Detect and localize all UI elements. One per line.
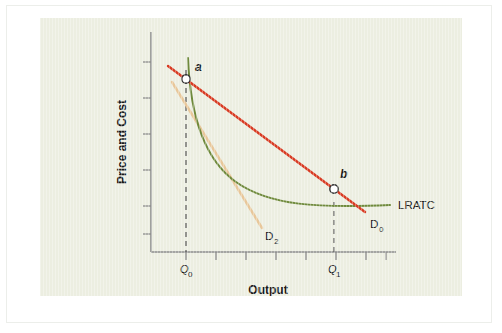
figure-page: a b LRATC D 0 D 2 Q 0 Q 1 Output — [0, 0, 502, 333]
economics-chart: a b LRATC D 0 D 2 Q 0 Q 1 Output — [40, 18, 462, 296]
curve-lratc — [188, 58, 390, 206]
point-label-a: a — [195, 60, 202, 74]
x-axis-ticks — [186, 252, 386, 260]
curve-label-d0-text: D — [370, 218, 378, 230]
curve-label-d0: D 0 — [370, 218, 384, 234]
x-tick-label-q0-subscript: 0 — [188, 270, 193, 279]
curve-label-d0-subscript: 0 — [379, 225, 384, 234]
equilibrium-point-b[interactable] — [330, 185, 338, 193]
x-axis-title: Output — [248, 283, 287, 296]
y-axis-ticks — [143, 62, 151, 234]
point-label-b: b — [340, 167, 347, 181]
curve-label-d2-subscript: 2 — [274, 237, 279, 246]
y-axis-title: Price and Cost — [115, 100, 129, 184]
curve-label-d2-text: D — [265, 230, 273, 242]
x-tick-label-q0: Q 0 — [180, 263, 193, 279]
equilibrium-point-a[interactable] — [182, 75, 190, 83]
curve-label-lratc: LRATC — [398, 199, 435, 211]
chart-panel: a b LRATC D 0 D 2 Q 0 Q 1 Output — [40, 18, 462, 296]
curve-label-d2: D 2 — [265, 230, 279, 246]
x-tick-label-q1: Q 1 — [328, 263, 341, 279]
x-tick-label-q1-subscript: 1 — [336, 270, 341, 279]
